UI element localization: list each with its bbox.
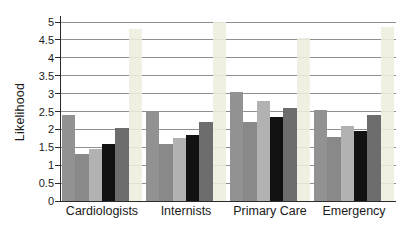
y-tick-label-1: 1 — [24, 159, 54, 171]
bar-internists-s1 — [146, 112, 159, 202]
bar-cardiologists-s1 — [62, 115, 75, 201]
y-tick-4.5 — [55, 39, 60, 40]
bar-internists-s3 — [173, 138, 186, 201]
x-label-internists: Internists — [144, 204, 228, 220]
bar-cardiologists-s5 — [115, 128, 128, 201]
y-axis — [60, 16, 61, 201]
bar-primary-care-s4 — [270, 117, 283, 201]
bar-internists-s4 — [186, 135, 199, 201]
bar-cardiologists-s4 — [102, 144, 115, 201]
plot-area — [60, 22, 396, 201]
y-tick-label-0: 0 — [24, 195, 54, 207]
bar-emergency-s6 — [381, 27, 394, 201]
y-tick-2.5 — [55, 111, 60, 112]
y-tick-1.5 — [55, 147, 60, 148]
y-tick-label-1.5: 1.5 — [24, 141, 54, 153]
bar-primary-care-s6 — [297, 38, 310, 201]
bar-internists-s6 — [213, 22, 226, 201]
x-label-cardiologists: Cardiologists — [60, 204, 144, 220]
bar-emergency-s3 — [341, 126, 354, 201]
bar-emergency-s5 — [367, 115, 380, 201]
bar-emergency-s4 — [354, 131, 367, 201]
y-tick-label-5: 5 — [24, 16, 54, 28]
gridline-3 — [60, 93, 396, 94]
bar-emergency-s1 — [314, 110, 327, 201]
y-tick-1 — [55, 165, 60, 166]
bar-primary-care-s3 — [257, 101, 270, 201]
bar-cardiologists-s2 — [75, 154, 88, 201]
gridline-4.5 — [60, 39, 396, 40]
x-label-emergency: Emergency — [312, 204, 396, 220]
bar-internists-s2 — [159, 144, 172, 201]
y-tick-label-4.5: 4.5 — [24, 34, 54, 46]
y-tick-label-2.5: 2.5 — [24, 106, 54, 118]
bar-emergency-s2 — [327, 137, 340, 201]
y-tick-3 — [55, 93, 60, 94]
bar-primary-care-s2 — [243, 122, 256, 201]
bar-primary-care-s1 — [230, 92, 243, 201]
y-tick-label-0.5: 0.5 — [24, 177, 54, 189]
y-tick-label-2: 2 — [24, 123, 54, 135]
y-tick-0 — [55, 201, 60, 202]
gridline-4 — [60, 57, 396, 58]
y-tick-3.5 — [55, 75, 60, 76]
y-tick-label-3.5: 3.5 — [24, 70, 54, 82]
y-tick-2 — [55, 129, 60, 130]
y-tick-5 — [55, 22, 60, 23]
gridline-3.5 — [60, 75, 396, 76]
y-tick-label-3: 3 — [24, 88, 54, 100]
x-axis — [55, 201, 396, 203]
gridline-5 — [60, 22, 396, 23]
y-tick-4 — [55, 57, 60, 58]
y-tick-label-4: 4 — [24, 52, 54, 64]
bar-cardiologists-s3 — [89, 149, 102, 201]
bar-cardiologists-s6 — [129, 29, 142, 201]
bar-internists-s5 — [199, 122, 212, 201]
x-label-primary-care: Primary Care — [228, 204, 312, 220]
gridline-2.5 — [60, 111, 396, 112]
y-tick-0.5 — [55, 183, 60, 184]
likelihood-bar-chart: Likelihood 00.511.522.533.544.55 Cardiol… — [0, 0, 400, 229]
bar-primary-care-s5 — [283, 108, 296, 201]
